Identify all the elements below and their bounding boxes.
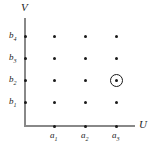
v-axis-label: V [21, 2, 28, 13]
highlighted-point-ring [110, 74, 123, 87]
u-axis-label: U [139, 119, 147, 130]
x-tick-label: a2 [81, 131, 89, 142]
lattice-point [53, 35, 56, 38]
lattice-point [53, 57, 56, 60]
lattice-point [53, 125, 56, 128]
lattice-point [53, 101, 56, 104]
lattice-point [115, 35, 118, 38]
lattice-point [84, 125, 87, 128]
y-tick-label: b3 [9, 53, 17, 64]
lattice-point [24, 57, 27, 60]
lattice-point [24, 101, 27, 104]
lattice-point [115, 101, 118, 104]
lattice-point [84, 35, 87, 38]
lattice-point [115, 125, 118, 128]
lattice-point [84, 79, 87, 82]
u-axis-line [24, 125, 135, 127]
x-tick-label: a3 [112, 131, 120, 142]
lattice-point [24, 35, 27, 38]
lattice-point [115, 57, 118, 60]
y-tick-label: b1 [9, 97, 17, 108]
y-tick-label: b4 [9, 31, 17, 42]
lattice-point [84, 57, 87, 60]
lattice-point [53, 79, 56, 82]
y-tick-label: b2 [9, 75, 17, 86]
lattice-diagram: V U b4b3b2b1 a1a2a3 [0, 0, 154, 148]
lattice-point [24, 79, 27, 82]
lattice-point [84, 101, 87, 104]
x-tick-label: a1 [50, 131, 58, 142]
